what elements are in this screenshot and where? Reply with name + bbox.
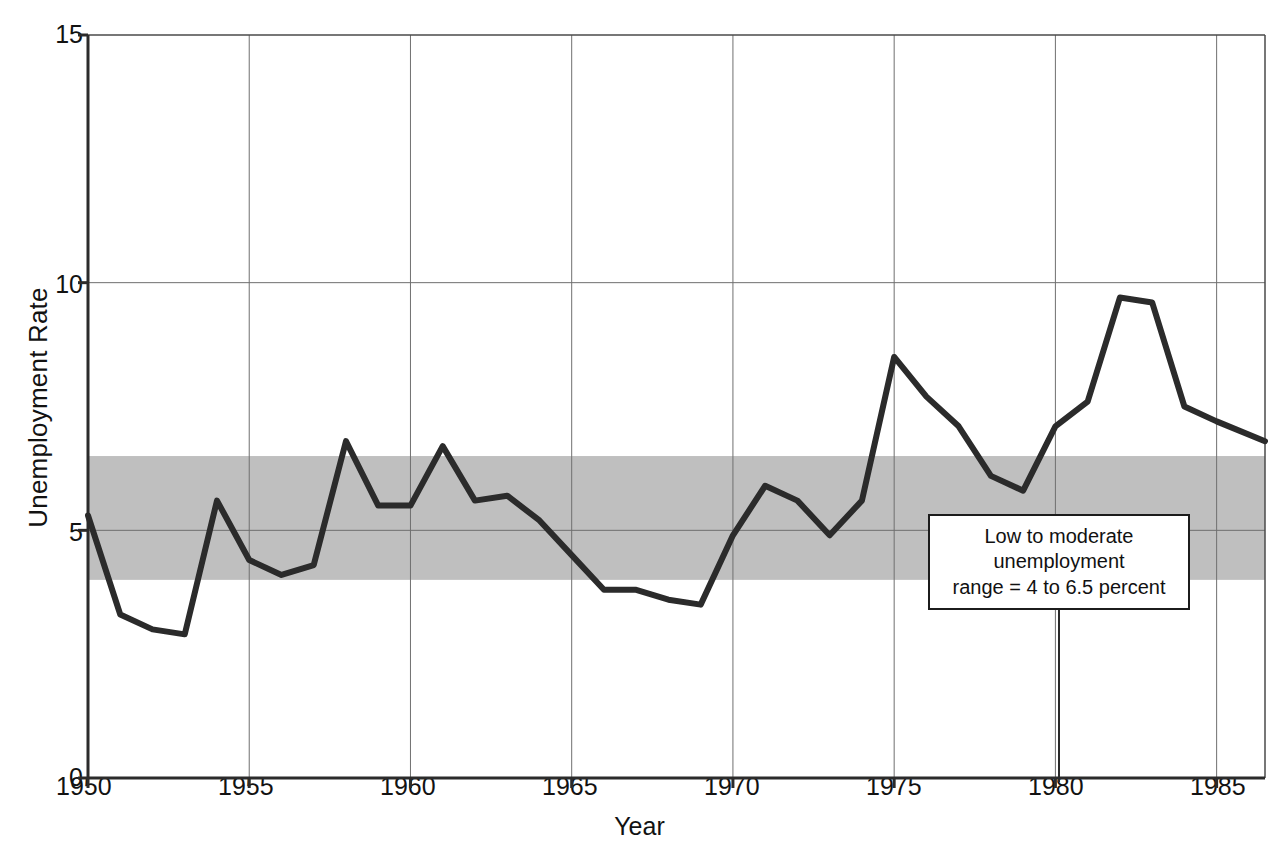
- plot-area: [0, 0, 1279, 858]
- annotation-callout: Low to moderate unemployment range = 4 t…: [928, 514, 1190, 610]
- annotation-line-3: range = 4 to 6.5 percent: [953, 575, 1166, 600]
- unemployment-rate-chart: Unemployment Rate 15 10 5 0 1950 1955 19…: [0, 0, 1279, 858]
- annotation-line-2: unemployment: [993, 549, 1124, 574]
- annotation-line-1: Low to moderate: [985, 524, 1134, 549]
- plot-frame: [78, 35, 1265, 788]
- gridlines: [88, 35, 1265, 778]
